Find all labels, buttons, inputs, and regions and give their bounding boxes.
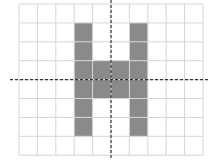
shaded-cell xyxy=(74,23,92,42)
shaded-cell xyxy=(74,80,92,99)
shaded-cell xyxy=(111,80,129,99)
shaded-cell xyxy=(111,61,129,80)
shaded-cell xyxy=(93,61,111,80)
shaded-cell xyxy=(129,23,147,42)
shaded-cell xyxy=(74,42,92,61)
shaded-cell xyxy=(74,117,92,136)
shaded-cell xyxy=(129,42,147,61)
shaded-cell xyxy=(129,99,147,118)
shaded-cell xyxy=(129,117,147,136)
shaded-cell xyxy=(129,80,147,99)
shaded-cell xyxy=(74,61,92,80)
grid-figure xyxy=(0,0,210,160)
shaded-cell xyxy=(93,80,111,99)
shaded-cell xyxy=(129,61,147,80)
shaded-cell xyxy=(74,99,92,118)
